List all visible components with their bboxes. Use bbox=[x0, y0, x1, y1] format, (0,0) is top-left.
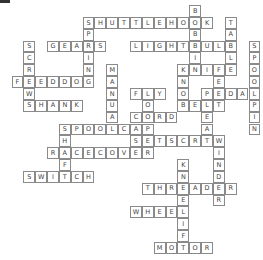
crossword-cell[interactable]: S bbox=[94, 41, 106, 53]
crossword-cell[interactable]: G bbox=[154, 41, 166, 53]
crossword-cell[interactable]: P bbox=[83, 29, 95, 41]
crossword-cell[interactable]: D bbox=[201, 183, 213, 195]
crossword-cell[interactable]: G bbox=[47, 41, 59, 53]
crossword-cell[interactable]: W bbox=[213, 135, 225, 147]
crossword-cell[interactable]: O bbox=[249, 76, 261, 88]
crossword-cell[interactable]: H bbox=[94, 17, 106, 29]
crossword-cell[interactable]: O bbox=[177, 88, 189, 100]
crossword-cell[interactable]: O bbox=[189, 17, 201, 29]
crossword-cell[interactable]: R bbox=[213, 195, 225, 207]
crossword-cell[interactable]: R bbox=[83, 41, 95, 53]
crossword-cell[interactable]: E bbox=[142, 135, 154, 147]
crossword-cell[interactable]: O bbox=[177, 17, 189, 29]
crossword-cell[interactable]: B bbox=[189, 29, 201, 41]
crossword-cell[interactable]: O bbox=[142, 100, 154, 112]
crossword-cell[interactable]: E bbox=[213, 88, 225, 100]
crossword-cell[interactable]: C bbox=[71, 147, 83, 159]
crossword-cell[interactable]: I bbox=[47, 171, 59, 183]
crossword-cell[interactable]: F bbox=[59, 159, 71, 171]
crossword-cell[interactable]: U bbox=[201, 41, 213, 53]
crossword-cell[interactable]: S bbox=[23, 171, 35, 183]
crossword-cell[interactable]: L bbox=[177, 206, 189, 218]
crossword-cell[interactable]: H bbox=[142, 206, 154, 218]
crossword-cell[interactable]: S bbox=[130, 135, 142, 147]
crossword-cell[interactable]: F bbox=[130, 88, 142, 100]
crossword-cell[interactable]: U bbox=[106, 100, 118, 112]
crossword-cell[interactable]: T bbox=[130, 17, 142, 29]
crossword-cell[interactable]: U bbox=[106, 17, 118, 29]
crossword-cell[interactable]: T bbox=[201, 135, 213, 147]
crossword-cell[interactable]: O bbox=[71, 76, 83, 88]
crossword-cell[interactable]: P bbox=[249, 100, 261, 112]
crossword-cell[interactable]: I bbox=[83, 52, 95, 64]
crossword-cell[interactable]: I bbox=[142, 41, 154, 53]
crossword-cell[interactable]: E bbox=[130, 147, 142, 159]
crossword-cell[interactable]: A bbox=[59, 147, 71, 159]
crossword-cell[interactable]: H bbox=[59, 135, 71, 147]
crossword-cell[interactable]: K bbox=[71, 100, 83, 112]
crossword-cell[interactable]: L bbox=[142, 17, 154, 29]
crossword-cell[interactable]: E bbox=[177, 195, 189, 207]
crossword-cell[interactable]: K bbox=[177, 64, 189, 76]
crossword-cell[interactable]: H bbox=[154, 183, 166, 195]
crossword-cell[interactable]: S bbox=[59, 124, 71, 136]
crossword-cell[interactable]: N bbox=[177, 171, 189, 183]
crossword-cell[interactable]: E bbox=[225, 64, 237, 76]
crossword-cell[interactable]: C bbox=[130, 112, 142, 124]
crossword-cell[interactable]: H bbox=[166, 17, 178, 29]
crossword-cell[interactable]: G bbox=[83, 76, 95, 88]
crossword-cell[interactable]: N bbox=[249, 124, 261, 136]
crossword-cell[interactable]: D bbox=[225, 88, 237, 100]
crossword-cell[interactable]: E bbox=[23, 76, 35, 88]
crossword-cell[interactable]: W bbox=[23, 88, 35, 100]
crossword-cell[interactable]: T bbox=[142, 183, 154, 195]
crossword-cell[interactable]: L bbox=[130, 41, 142, 53]
crossword-cell[interactable]: T bbox=[118, 17, 130, 29]
crossword-cell[interactable]: R bbox=[23, 64, 35, 76]
crossword-cell[interactable]: I bbox=[177, 218, 189, 230]
crossword-cell[interactable]: E bbox=[189, 100, 201, 112]
crossword-cell[interactable]: I bbox=[249, 112, 261, 124]
crossword-cell[interactable]: I bbox=[201, 64, 213, 76]
crossword-cell[interactable]: E bbox=[201, 112, 213, 124]
crossword-cell[interactable]: C bbox=[71, 171, 83, 183]
crossword-cell[interactable]: R bbox=[142, 147, 154, 159]
crossword-cell[interactable]: W bbox=[130, 206, 142, 218]
crossword-cell[interactable]: E bbox=[177, 183, 189, 195]
crossword-cell[interactable]: A bbox=[225, 29, 237, 41]
crossword-cell[interactable]: P bbox=[201, 88, 213, 100]
crossword-cell[interactable]: E bbox=[59, 41, 71, 53]
crossword-cell[interactable]: O bbox=[83, 124, 95, 136]
crossword-cell[interactable]: H bbox=[35, 100, 47, 112]
crossword-cell[interactable]: O bbox=[106, 147, 118, 159]
crossword-cell[interactable]: I bbox=[189, 52, 201, 64]
crossword-cell[interactable]: E bbox=[154, 17, 166, 29]
crossword-cell[interactable]: D bbox=[47, 76, 59, 88]
crossword-cell[interactable]: O bbox=[94, 124, 106, 136]
crossword-cell[interactable]: S bbox=[23, 41, 35, 53]
crossword-cell[interactable]: E bbox=[166, 206, 178, 218]
crossword-cell[interactable]: L bbox=[142, 88, 154, 100]
crossword-cell[interactable]: S bbox=[249, 41, 261, 53]
crossword-cell[interactable]: T bbox=[177, 242, 189, 254]
crossword-cell[interactable]: S bbox=[83, 17, 95, 29]
crossword-cell[interactable]: A bbox=[189, 183, 201, 195]
crossword-cell[interactable]: I bbox=[213, 147, 225, 159]
crossword-cell[interactable]: F bbox=[12, 76, 24, 88]
crossword-cell[interactable]: E bbox=[35, 76, 47, 88]
crossword-cell[interactable]: L bbox=[213, 41, 225, 53]
crossword-cell[interactable]: E bbox=[213, 183, 225, 195]
crossword-cell[interactable]: B bbox=[177, 100, 189, 112]
crossword-cell[interactable]: S bbox=[23, 100, 35, 112]
crossword-cell[interactable]: R bbox=[47, 147, 59, 159]
crossword-cell[interactable]: C bbox=[177, 135, 189, 147]
crossword-cell[interactable]: T bbox=[154, 135, 166, 147]
crossword-cell[interactable]: N bbox=[213, 159, 225, 171]
crossword-cell[interactable]: E bbox=[83, 147, 95, 159]
crossword-cell[interactable]: L bbox=[201, 100, 213, 112]
crossword-cell[interactable]: S bbox=[166, 135, 178, 147]
crossword-cell[interactable]: E bbox=[154, 206, 166, 218]
crossword-cell[interactable]: O bbox=[166, 242, 178, 254]
crossword-cell[interactable]: L bbox=[249, 88, 261, 100]
crossword-cell[interactable]: W bbox=[35, 171, 47, 183]
